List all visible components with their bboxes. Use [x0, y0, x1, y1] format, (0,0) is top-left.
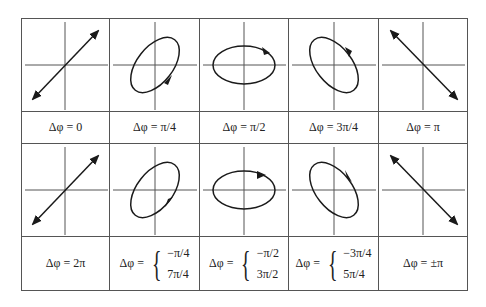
left-brace-icon: {: [152, 246, 162, 282]
circular-like-polarization-cw-icon: [200, 144, 289, 237]
cell-r2c5-graphic: [379, 144, 467, 237]
linear-polarization-positive-icon: [22, 19, 110, 112]
cell-r2c1-graphic: [22, 144, 110, 237]
cell-r2c2-graphic: [110, 144, 200, 237]
cell-r1c2-graphic: [110, 19, 200, 112]
cell-r1c4-graphic: [289, 19, 379, 112]
elliptical-polarization-negative-ccw-icon: [289, 19, 379, 112]
cell-r2c4-graphic: [289, 144, 379, 237]
label-r1c1: Δφ = 0: [22, 112, 110, 144]
label-r2c2: Δφ = { −π/4 7π/4: [110, 237, 200, 290]
label-r1c4: Δφ = 3π/4: [289, 112, 379, 144]
elliptical-polarization-negative-cw-icon: [289, 144, 379, 237]
linear-polarization-negative-icon: [379, 144, 467, 237]
cell-r2c3-graphic: [200, 144, 289, 237]
cell-r1c1-graphic: [22, 19, 110, 112]
polarization-table: Δφ = 0 Δφ = π/4 Δφ = π/2 Δφ = 3π/4 Δφ = …: [21, 18, 468, 291]
label-r2c5: Δφ = ±π: [379, 237, 467, 290]
linear-polarization-positive-icon: [22, 144, 110, 237]
cell-r1c3-graphic: [200, 19, 289, 112]
label-r1c2: Δφ = π/4: [110, 112, 200, 144]
left-brace-icon: {: [328, 246, 338, 282]
label-r2c4: Δφ = { −3π/4 5π/4: [289, 237, 379, 290]
label-r2c1: Δφ = 2π: [22, 237, 110, 290]
linear-polarization-negative-icon: [379, 19, 467, 112]
elliptical-polarization-cw-icon: [110, 144, 200, 237]
elliptical-polarization-ccw-icon: [110, 19, 200, 112]
label-r2c3: Δφ = { −π/2 3π/2: [200, 237, 289, 290]
label-r1c3: Δφ = π/2: [200, 112, 289, 144]
left-brace-icon: {: [241, 246, 251, 282]
circular-like-polarization-ccw-icon: [200, 19, 289, 112]
cell-r1c5-graphic: [379, 19, 467, 112]
label-r1c5: Δφ = π: [379, 112, 467, 144]
